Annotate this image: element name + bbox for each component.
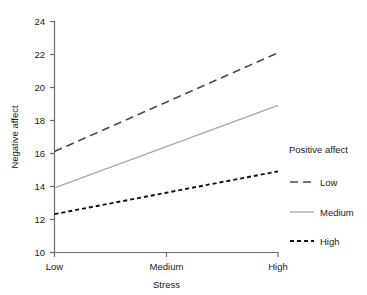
series-line-low	[55, 53, 279, 152]
y-axis-title: Negative affect	[9, 105, 20, 169]
y-tick-label-16: 16	[34, 148, 45, 159]
legend-item-medium[interactable]: Medium	[290, 207, 354, 218]
y-axis-ticks	[50, 22, 55, 253]
y-tick-label-18: 18	[34, 115, 45, 126]
legend-label-medium: Medium	[320, 207, 354, 218]
y-tick-label-20: 20	[34, 82, 45, 93]
x-tick-label-medium: Medium	[150, 261, 184, 272]
x-tick-label-low: Low	[46, 261, 64, 272]
y-tick-label-10: 10	[34, 247, 45, 258]
legend-item-high[interactable]: High	[290, 236, 340, 247]
legend-title: Positive affect	[289, 144, 348, 155]
series-line-medium	[55, 105, 279, 187]
x-axis-ticks	[55, 253, 279, 258]
legend-label-high: High	[320, 236, 340, 247]
y-tick-label-12: 12	[34, 214, 45, 225]
legend: Positive affect Low Medium High	[289, 144, 354, 247]
x-tick-label-high: High	[268, 261, 288, 272]
chart-figure: 10 12 14 16 18 20 22 24 Low Medium High …	[0, 0, 367, 295]
legend-label-low: Low	[320, 177, 338, 188]
y-tick-label-22: 22	[34, 49, 45, 60]
y-tick-label-14: 14	[34, 181, 45, 192]
x-axis-title: Stress	[153, 279, 180, 290]
y-tick-label-24: 24	[34, 16, 45, 27]
line-chart: 10 12 14 16 18 20 22 24 Low Medium High …	[0, 0, 367, 295]
series-line-high	[55, 171, 279, 214]
legend-item-low[interactable]: Low	[290, 177, 338, 188]
